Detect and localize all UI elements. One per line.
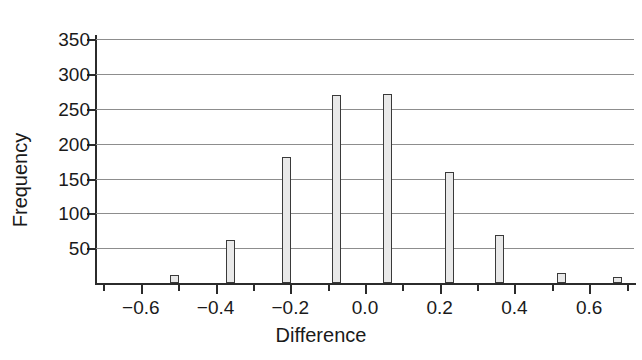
y-axis-title: Frequency [9, 133, 31, 228]
x-axis-title: Difference [0, 324, 642, 346]
y-axis-tick-label: 50 [69, 239, 90, 258]
x-axis-tick-minor [328, 283, 330, 291]
y-axis-tick-label: 200 [58, 134, 90, 153]
gridline-y-350 [96, 39, 634, 40]
histogram-bar-pos-0-525 [557, 273, 566, 283]
y-axis-tick-label: 300 [58, 65, 90, 84]
histogram-bar-pos-0-225 [445, 172, 454, 283]
x-axis-tick-major [365, 283, 367, 294]
x-axis-tick-minor [253, 283, 255, 291]
histogram-bar-neg-0-21 [282, 157, 291, 283]
histogram-bar-neg-0-075 [332, 95, 341, 283]
gridline-y-100 [96, 213, 634, 214]
y-axis-tick-label: 350 [58, 30, 90, 49]
x-axis-tick-minor [627, 283, 629, 291]
histogram-bar-neg-0-51 [170, 275, 179, 283]
histogram-bar-neg-0-36 [226, 240, 235, 283]
histogram-bar-pos-0-675 [613, 277, 622, 283]
x-axis-tick-label: −0.6 [122, 297, 160, 318]
gridline-y-250 [96, 109, 634, 110]
x-axis-tick-label: 0.0 [352, 297, 378, 318]
histogram-bar-pos-0-06 [383, 94, 392, 283]
gridline-y-300 [96, 74, 634, 75]
x-axis-tick-major [440, 283, 442, 294]
x-axis-tick-label: −0.2 [272, 297, 310, 318]
x-axis-tick-minor [178, 283, 180, 291]
gridline-y-50 [96, 248, 634, 249]
x-axis-tick-major [514, 283, 516, 294]
y-axis-tick-label: 150 [58, 169, 90, 188]
x-axis-tick-minor [103, 283, 105, 291]
x-axis-tick-major [141, 283, 143, 294]
x-axis-tick-major [216, 283, 218, 294]
gridline-y-150 [96, 179, 634, 180]
x-axis-tick-minor [477, 283, 479, 291]
y-axis-tick-label: 100 [58, 204, 90, 223]
x-axis-tick-minor [402, 283, 404, 291]
x-axis-tick-label: −0.4 [197, 297, 235, 318]
histogram-chart: Frequency 50100150200250300350−0.6−0.4−0… [0, 0, 642, 360]
x-axis-tick-major [589, 283, 591, 294]
x-axis-tick-label: 0.4 [501, 297, 527, 318]
histogram-bar-pos-0-36 [495, 235, 504, 283]
y-axis-title-holder: Frequency [22, 0, 46, 360]
x-axis-tick-major [290, 283, 292, 294]
plot-area: 50100150200250300350−0.6−0.4−0.20.00.20.… [96, 36, 634, 283]
gridline-y-200 [96, 144, 634, 145]
x-axis-tick-label: 0.2 [427, 297, 453, 318]
x-axis-tick-minor [552, 283, 554, 291]
x-axis-tick-label: 0.6 [576, 297, 602, 318]
y-axis-tick-label: 250 [58, 100, 90, 119]
